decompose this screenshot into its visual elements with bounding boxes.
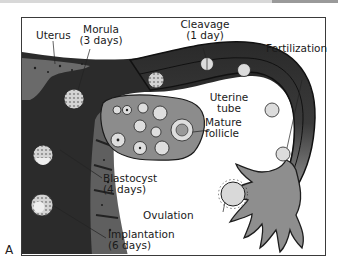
label-mature-follicle-line2: follicle: [205, 127, 239, 139]
label-uterine-tube: Uterine tube: [207, 92, 251, 114]
label-morula-days: (3 days): [80, 34, 123, 46]
label-implantation: Implantation (6 days): [108, 229, 175, 251]
label-cleavage-days: (1 day): [186, 29, 224, 41]
label-blastocyst: Blastocyst (4 days): [103, 173, 157, 195]
panel-letter: A: [5, 243, 13, 257]
label-uterus: Uterus: [36, 30, 71, 41]
label-mature-follicle: Mature follicle: [205, 117, 242, 139]
label-morula: Morula (3 days): [79, 24, 123, 46]
label-implantation-days: (6 days): [108, 239, 151, 251]
label-blastocyst-days: (4 days): [103, 183, 146, 195]
label-ovulation: Ovulation: [143, 210, 194, 221]
label-uterine-tube-line2: tube: [217, 102, 241, 114]
label-fertilization: Fertilization: [266, 43, 327, 54]
label-cleavage: Cleavage (1 day): [180, 19, 230, 41]
